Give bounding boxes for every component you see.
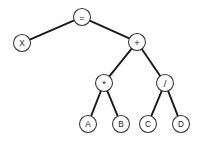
tree-canvas: =X+*/ABCD <box>0 0 202 145</box>
tree-edge-mul-a <box>91 91 101 116</box>
node-label-mul: * <box>102 78 106 89</box>
tree-edge-eq-plus <box>90 21 130 39</box>
tree-edge-eq-x <box>30 20 74 39</box>
tree-node-eq[interactable]: = <box>74 9 91 26</box>
tree-node-b[interactable]: B <box>113 116 130 133</box>
tree-node-c[interactable]: C <box>140 116 157 133</box>
tree-edge-plus-div <box>142 49 160 76</box>
node-layer: =X+*/ABCD <box>14 9 190 133</box>
tree-node-div[interactable]: / <box>157 75 174 92</box>
tree-node-d[interactable]: D <box>173 116 190 133</box>
tree-edge-plus-mul <box>109 49 131 77</box>
node-label-b: B <box>118 120 124 129</box>
tree-node-x[interactable]: X <box>14 35 31 52</box>
tree-node-a[interactable]: A <box>80 116 97 133</box>
tree-edge-div-c <box>151 91 161 116</box>
node-label-d: D <box>178 120 184 129</box>
node-label-div: / <box>164 78 167 89</box>
node-label-eq: = <box>79 12 85 23</box>
node-label-c: C <box>145 120 151 129</box>
tree-node-plus[interactable]: + <box>129 34 146 51</box>
tree-edge-div-d <box>168 91 178 116</box>
tree-edge-mul-b <box>107 91 117 116</box>
edge-layer <box>30 20 178 116</box>
node-label-plus: + <box>134 37 140 48</box>
tree-node-mul[interactable]: * <box>96 75 113 92</box>
node-label-a: A <box>85 120 91 129</box>
expression-tree-diagram: =X+*/ABCD <box>0 0 202 145</box>
node-label-x: X <box>19 39 25 48</box>
